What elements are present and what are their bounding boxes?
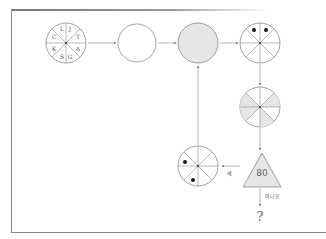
- flow-diagram: J T A G S K C L: [0, 0, 326, 239]
- threshold-value: 80: [256, 168, 268, 178]
- segment-letter: L: [60, 25, 64, 32]
- segment-letter: T: [76, 33, 80, 40]
- result-question-mark: ?: [257, 209, 264, 224]
- segment-letter: A: [75, 45, 81, 52]
- segment-letter: S: [60, 53, 64, 60]
- two-dots-top-circle: [240, 23, 280, 63]
- yes-label: 예: [227, 170, 232, 177]
- shaded-sectors-circle: [240, 87, 280, 127]
- segment-letter: K: [52, 45, 57, 52]
- two-dots-lower-circle: [178, 146, 218, 186]
- dot-marker: [191, 178, 195, 182]
- segment-letter: J: [68, 25, 72, 33]
- dot-marker: [264, 28, 268, 32]
- segment-letter: G: [68, 53, 73, 60]
- letter-wheel-circle: J T A G S K C L: [46, 23, 86, 63]
- segment-letter: C: [52, 33, 57, 40]
- empty-circle: [118, 24, 156, 62]
- dot-marker: [183, 160, 187, 164]
- dot-marker: [252, 28, 256, 32]
- no-label: 아니오: [265, 193, 280, 200]
- gray-circle: [178, 23, 218, 63]
- decision-triangle: 80: [243, 153, 281, 187]
